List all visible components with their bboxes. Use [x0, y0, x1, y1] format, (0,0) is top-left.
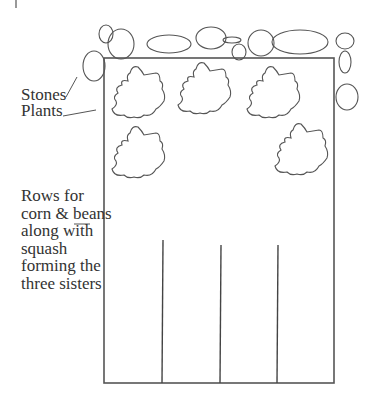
- stone: [196, 27, 226, 49]
- stones-group: [83, 25, 358, 110]
- stone: [339, 51, 351, 73]
- row-line: [277, 245, 278, 383]
- row-line: [162, 240, 163, 383]
- plant: [112, 127, 165, 178]
- stone: [83, 51, 105, 81]
- rows-description-line: along with: [21, 222, 112, 240]
- rows-description-line: three sisters: [21, 275, 112, 293]
- stone: [248, 30, 274, 56]
- stone: [147, 35, 191, 53]
- plants-group: [112, 63, 328, 178]
- stone: [336, 33, 354, 49]
- plant: [178, 63, 231, 114]
- stones-leader-line: [66, 77, 77, 97]
- stone: [272, 30, 328, 54]
- rows-description-line: Rows for: [21, 187, 112, 205]
- plants-label: Plants: [21, 102, 63, 119]
- rows-group: [162, 240, 278, 383]
- stone: [336, 84, 358, 110]
- stone: [108, 29, 134, 59]
- plant: [275, 124, 328, 175]
- rows-description: Rows for corn & beans along with squash …: [21, 187, 112, 292]
- plant: [247, 67, 300, 118]
- plants-leader-line: [63, 110, 96, 116]
- plant: [112, 67, 165, 118]
- row-line: [220, 245, 221, 383]
- rows-description-line: forming the: [21, 257, 112, 275]
- rows-description-line: squash: [21, 240, 112, 258]
- garden-bed-outline: [104, 58, 334, 383]
- rows-description-line: corn & beans: [21, 205, 112, 223]
